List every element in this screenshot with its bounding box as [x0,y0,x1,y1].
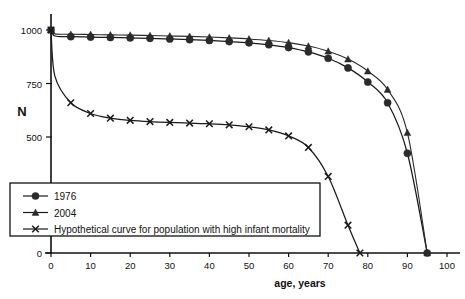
marker-circle [32,192,39,199]
x-tick-label: 10 [85,260,96,271]
x-axis-title: age, years [274,277,326,289]
y-tick-label: 500 [26,132,42,143]
survivorship-chart: 010203040506070809010005007501000Nage, y… [0,0,465,299]
x-tick-label: 20 [125,260,136,271]
marker-triangle [404,129,411,135]
marker-circle [404,150,411,157]
marker-circle [384,99,391,106]
x-tick-group: 0102030405060708090100 [48,253,455,271]
legend-label: 2004 [54,208,77,219]
x-tick-label: 70 [323,260,334,271]
chart-canvas: 010203040506070809010005007501000Nage, y… [0,0,465,299]
y-tick-label: 750 [26,79,42,90]
marker-x [345,222,352,229]
y-tick-label: 0 [37,248,42,259]
marker-x [325,173,332,180]
x-tick-label: 60 [283,260,294,271]
marker-x [285,133,292,140]
legend: 19762004Hypothetical curve for populatio… [10,183,320,236]
marker-x [305,144,312,151]
x-tick-label: 50 [244,260,255,271]
chart-root: 010203040506070809010005007501000Nage, y… [0,0,465,299]
y-axis-title: N [17,104,26,119]
marker-x [87,110,94,117]
x-tick-label: 80 [363,260,374,271]
marker-circle [364,78,371,85]
marker-circle [344,64,351,71]
marker-triangle [345,56,352,62]
x-tick-label: 90 [402,260,413,271]
x-tick-label: 40 [204,260,215,271]
legend-label: 1976 [54,191,77,202]
marker-circle [305,48,312,55]
marker-circle [325,55,332,62]
marker-x [68,99,75,106]
x-tick-label: 100 [439,260,455,271]
y-tick-label: 1000 [21,25,42,36]
x-tick-label: 30 [165,260,176,271]
x-tick-label: 0 [48,260,53,271]
legend-label: Hypothetical curve for population with h… [54,224,310,235]
marker-triangle [364,68,371,74]
